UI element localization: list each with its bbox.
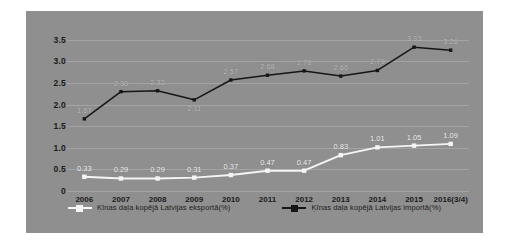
data-point-marker	[448, 142, 452, 146]
chart-container: 00.51.01.52.02.53.03.5 20062007200820092…	[0, 0, 505, 251]
data-point-marker	[155, 176, 159, 180]
data-point-label: 2.78	[297, 58, 312, 67]
data-point-marker	[302, 168, 306, 172]
data-point-marker	[376, 69, 379, 72]
data-point-label: 2.11	[187, 104, 201, 113]
data-point-marker	[83, 117, 86, 120]
gridline	[66, 191, 469, 192]
data-point-marker	[449, 48, 452, 51]
data-point-marker	[229, 78, 232, 81]
data-point-marker	[119, 176, 123, 180]
data-point-label: 1.05	[407, 133, 422, 142]
data-point-label: 0.31	[187, 165, 202, 174]
data-point-label: 0.83	[333, 142, 348, 151]
data-point-label: 1.01	[370, 134, 385, 143]
data-point-label: 0.29	[114, 165, 129, 174]
series-lines-group	[44, 29, 469, 191]
data-point-label: 3.26	[443, 37, 458, 46]
data-point-label: 3.33	[407, 34, 422, 43]
legend-marker-export-icon	[68, 203, 92, 212]
data-point-label: 0.37	[224, 162, 239, 171]
data-point-marker	[339, 153, 343, 157]
data-point-marker	[229, 173, 233, 177]
data-point-label: 2.66	[333, 63, 348, 72]
data-point-label: 2.30	[114, 79, 129, 88]
data-point-label: 0.47	[260, 158, 275, 167]
data-point-label: 2.68	[260, 62, 275, 71]
plot-area: 00.51.01.52.02.53.03.5 20062007200820092…	[44, 29, 469, 191]
data-point-marker	[412, 45, 415, 48]
data-point-marker	[119, 90, 122, 93]
legend-label-import: Ķīnas daļa kopējā Latvijas importā(%)	[311, 203, 441, 212]
data-point-marker	[82, 175, 86, 179]
data-point-marker	[265, 168, 269, 172]
data-point-marker	[339, 74, 342, 77]
legend-marker-import-icon	[282, 203, 306, 212]
data-point-label: 1.09	[443, 131, 458, 140]
data-point-marker	[375, 145, 379, 149]
legend-item-import[interactable]: Ķīnas daļa kopējā Latvijas importā(%)	[282, 203, 441, 212]
legend-label-export: Ķīnas daļa kopējā Latvijas eksportā(%)	[97, 203, 230, 212]
data-point-label: 2.79	[370, 57, 385, 66]
chart-panel: 00.51.01.52.02.53.03.5 20062007200820092…	[26, 11, 483, 233]
data-point-marker	[302, 69, 305, 72]
data-point-marker	[156, 89, 159, 92]
legend-item-export[interactable]: Ķīnas daļa kopējā Latvijas eksportā(%)	[68, 203, 230, 212]
data-point-marker	[266, 74, 269, 77]
series-line	[84, 47, 450, 119]
data-point-marker	[192, 175, 196, 179]
data-point-label: 2.32	[150, 78, 165, 87]
data-point-label: 0.33	[77, 164, 92, 173]
data-point-label: 0.29	[150, 165, 165, 174]
chart-legend: Ķīnas daļa kopējā Latvijas eksportā(%) Ķ…	[26, 203, 483, 212]
data-point-label: 2.57	[224, 67, 239, 76]
data-point-label: 0.47	[297, 158, 312, 167]
data-point-marker	[193, 98, 196, 101]
data-point-marker	[412, 143, 416, 147]
data-point-label: 1.67	[77, 106, 92, 115]
